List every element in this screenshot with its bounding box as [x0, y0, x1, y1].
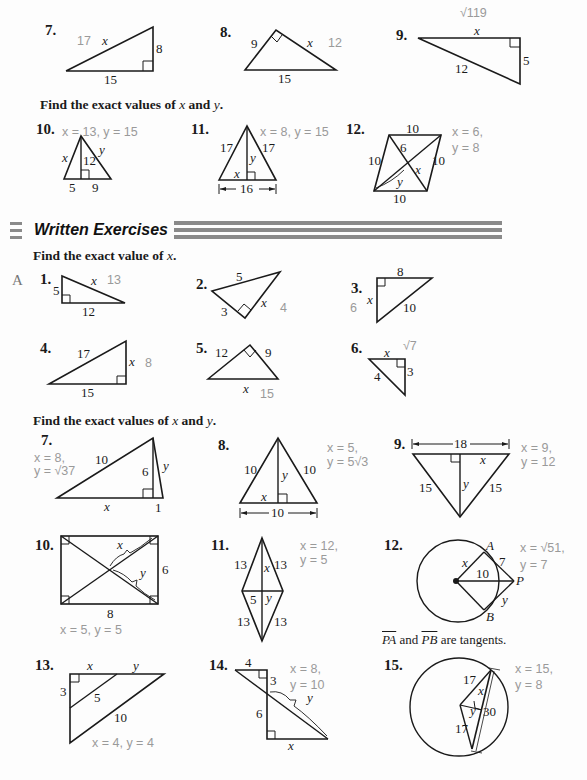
svg-text:17: 17 [455, 721, 469, 736]
answer-annotation: x = 4, y = 4 [92, 735, 154, 752]
svg-text:3: 3 [60, 684, 67, 699]
instruction-text: Find the exact values of x and y. [33, 413, 216, 429]
svg-text:y: y [395, 174, 403, 189]
instruction-text: Find the exact values of x and y. [40, 97, 223, 113]
svg-text:y: y [131, 658, 139, 673]
svg-text:A: A [485, 538, 494, 553]
problem-number: 9. [396, 27, 407, 44]
svg-text:x: x [383, 345, 390, 360]
svg-text:4: 4 [245, 655, 252, 670]
svg-text:x: x [103, 499, 110, 514]
svg-text:10: 10 [476, 566, 489, 581]
svg-text:y: y [500, 592, 508, 607]
svg-text:x: x [128, 354, 135, 369]
problem-number: 11. [191, 121, 209, 138]
answer-annotation: 15 [260, 386, 274, 403]
svg-text:9: 9 [251, 36, 258, 51]
answer-annotation: x = 13, y = 15 [62, 124, 138, 141]
problem-number: 15. [384, 657, 403, 674]
svg-text:15: 15 [489, 480, 502, 495]
problem-number: 13. [35, 657, 54, 674]
svg-text:3: 3 [221, 304, 228, 319]
svg-text:5: 5 [53, 283, 60, 298]
svg-text:P: P [515, 573, 524, 588]
problem-number: 14. [209, 657, 228, 674]
svg-text:y: y [161, 458, 169, 473]
problem-number: 6. [351, 340, 362, 357]
answer-annotation: x = √51, [520, 540, 565, 557]
svg-text:9: 9 [265, 345, 272, 360]
svg-text:10: 10 [95, 452, 108, 467]
svg-text:x: x [461, 555, 468, 570]
svg-text:5: 5 [236, 269, 243, 284]
svg-text:8: 8 [107, 606, 114, 621]
svg-text:7: 7 [499, 554, 506, 569]
problem-number: 8. [220, 24, 231, 41]
svg-text:6: 6 [142, 464, 149, 479]
svg-text:12: 12 [82, 304, 95, 319]
problem-number: 7. [45, 22, 56, 39]
svg-text:17: 17 [262, 140, 276, 155]
problem-number: 4. [40, 340, 51, 357]
svg-text:x: x [477, 683, 484, 698]
svg-text:12: 12 [83, 153, 96, 168]
problem-number: 1. [40, 271, 51, 288]
svg-text:10: 10 [368, 153, 381, 168]
answer-annotation: 4 [280, 300, 287, 317]
answer-annotation: 17 [77, 33, 91, 50]
svg-text:8: 8 [397, 264, 404, 279]
svg-text:y: y [461, 476, 469, 491]
svg-text:6: 6 [256, 706, 263, 721]
answer-annotation: y = 5√3 [327, 454, 368, 471]
svg-text:x: x [263, 560, 270, 575]
problem-number: 11. [211, 537, 229, 554]
svg-text:13: 13 [234, 557, 247, 572]
svg-text:x: x [366, 292, 373, 307]
svg-text:10: 10 [406, 121, 419, 136]
svg-text:x: x [414, 162, 421, 177]
caption-text: and [396, 632, 421, 647]
answer-annotation: y = 7 [520, 557, 547, 574]
answer-annotation: y = 8 [515, 677, 542, 694]
problem-number: 9. [394, 436, 405, 453]
answer-annotation: 12 [328, 35, 342, 52]
answer-annotation: x = 8, y = 15 [260, 124, 329, 141]
svg-text:15: 15 [104, 72, 117, 87]
svg-text:10: 10 [271, 505, 284, 520]
svg-text:5: 5 [250, 592, 257, 607]
answer-annotation: y = √37 [34, 463, 75, 480]
answer-annotation: 6 [350, 300, 357, 317]
svg-text:12: 12 [215, 345, 228, 360]
svg-text:15: 15 [278, 71, 291, 86]
svg-text:10: 10 [393, 191, 406, 206]
svg-text:15: 15 [81, 385, 94, 400]
svg-text:10: 10 [432, 153, 445, 168]
answer-annotation: y = 5 [300, 552, 327, 569]
answer-annotation: 8 [145, 355, 152, 372]
svg-text:y: y [138, 565, 146, 580]
answer-annotation: 13 [107, 272, 121, 289]
svg-text:x: x [260, 295, 267, 310]
answer-annotation: x = 6, [452, 124, 483, 141]
figure-caption: PA and PB are tangents. [382, 632, 506, 648]
svg-text:30: 30 [483, 704, 496, 719]
answer-annotation: √119 [460, 5, 487, 22]
svg-text:x: x [90, 273, 97, 288]
problem-number: 2. [196, 276, 207, 293]
svg-text:6: 6 [400, 140, 407, 155]
svg-text:x: x [473, 23, 480, 38]
problem-number: 5. [196, 340, 207, 357]
svg-text:15: 15 [419, 480, 432, 495]
svg-text:B: B [486, 609, 494, 624]
circle-chord-diagram: 17 x y 30 17 [0, 0, 1, 1]
problem-number: 12. [346, 121, 365, 138]
svg-text:x: x [101, 33, 108, 48]
problem-number: 10. [36, 121, 55, 138]
problem-number: 3. [351, 280, 362, 297]
svg-text:10: 10 [303, 462, 316, 477]
svg-text:3: 3 [407, 364, 414, 379]
problem-number: 12. [384, 537, 403, 554]
svg-text:10: 10 [403, 300, 416, 315]
problem-number: 8. [218, 437, 229, 454]
svg-text:13: 13 [274, 614, 287, 629]
